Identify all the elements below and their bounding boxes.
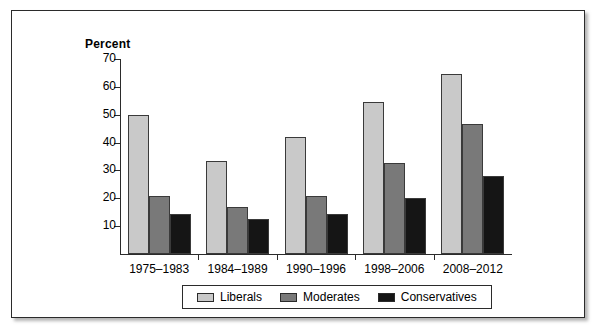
bar-conservatives-3 xyxy=(405,198,426,254)
legend-item-moderates[interactable]: Moderates xyxy=(280,290,360,304)
bar-conservatives-0 xyxy=(170,214,191,254)
legend-swatch-icon xyxy=(280,293,297,302)
legend-swatch-icon xyxy=(197,293,214,302)
y-axis-tick-label: 60 xyxy=(103,79,116,93)
legend-swatch-icon xyxy=(378,293,395,302)
bar-liberals-3 xyxy=(363,102,384,254)
x-axis-category-label: 1998–2006 xyxy=(355,262,433,276)
bar-liberals-1 xyxy=(206,161,227,254)
bar-liberals-0 xyxy=(128,115,149,254)
legend-item-label: Moderates xyxy=(303,290,360,304)
legend-item-label: Conservatives xyxy=(401,290,477,304)
bar-moderates-1 xyxy=(227,207,248,254)
legend-item-conservatives[interactable]: Conservatives xyxy=(378,290,477,304)
bar-conservatives-2 xyxy=(327,214,348,254)
x-axis-tick-mark xyxy=(277,254,278,260)
legend-item-label: Liberals xyxy=(220,290,262,304)
bar-liberals-2 xyxy=(285,137,306,254)
y-axis-tick-label: 10 xyxy=(103,218,116,232)
legend-item-liberals[interactable]: Liberals xyxy=(197,290,262,304)
x-axis-category-label: 2008–2012 xyxy=(434,262,512,276)
y-axis-tick-label: 40 xyxy=(103,135,116,149)
chart-legend: LiberalsModeratesConservatives xyxy=(182,285,492,309)
x-axis-tick-mark xyxy=(434,254,435,260)
y-axis-tick-label: 20 xyxy=(103,190,116,204)
bar-conservatives-4 xyxy=(483,176,504,254)
bar-moderates-2 xyxy=(306,196,327,255)
y-axis-tick-label: 70 xyxy=(103,51,116,65)
bar-conservatives-1 xyxy=(248,219,269,254)
y-axis-line xyxy=(120,59,121,255)
x-axis-category-label: 1975–1983 xyxy=(120,262,198,276)
y-axis-title: Percent xyxy=(85,37,130,51)
bar-moderates-0 xyxy=(149,196,170,255)
bar-moderates-3 xyxy=(384,163,405,254)
x-axis-category-label: 1984–1989 xyxy=(198,262,276,276)
bar-liberals-4 xyxy=(441,74,462,254)
chart-figure: Percent 10203040506070 1975–19831984–198… xyxy=(11,10,585,318)
y-axis-tick-label: 50 xyxy=(103,107,116,121)
x-axis-tick-mark xyxy=(198,254,199,260)
y-axis-tick-label: 30 xyxy=(103,162,116,176)
x-axis-tick-mark xyxy=(355,254,356,260)
bar-moderates-4 xyxy=(462,124,483,254)
x-axis-category-label: 1990–1996 xyxy=(277,262,355,276)
x-axis-line xyxy=(120,254,512,255)
plot-area: 10203040506070 1975–19831984–19891990–19… xyxy=(120,59,512,254)
